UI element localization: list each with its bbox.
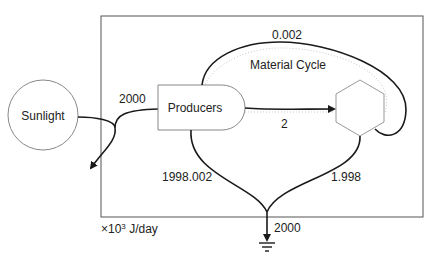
- flow-label-producers-to-consumers: 2: [281, 118, 288, 130]
- energy-flow-diagram: [0, 0, 437, 264]
- heat-sink-ground-icon: [259, 243, 275, 251]
- flow-label-consumers-to-sink: 1.998: [331, 171, 361, 183]
- flow-label-total-to-sink: 2000: [274, 222, 301, 234]
- producers-to-consumers-arrow: [245, 108, 334, 109]
- flow-label-producers-to-sink: 1998.002: [162, 171, 212, 183]
- material-cycle-label: Material Cycle: [250, 59, 326, 71]
- consumers-hexagon: [336, 80, 384, 136]
- flow-label-sunlight-to-producers: 2000: [119, 93, 146, 105]
- producers-label: Producers: [168, 102, 223, 114]
- reflected-light-arrow: [91, 128, 115, 168]
- flow-label-recycle: 0.002: [272, 29, 302, 41]
- units-label: ×103 J/day: [101, 223, 158, 235]
- sunlight-flow-line: [78, 109, 158, 128]
- sunlight-label: Sunlight: [21, 110, 64, 122]
